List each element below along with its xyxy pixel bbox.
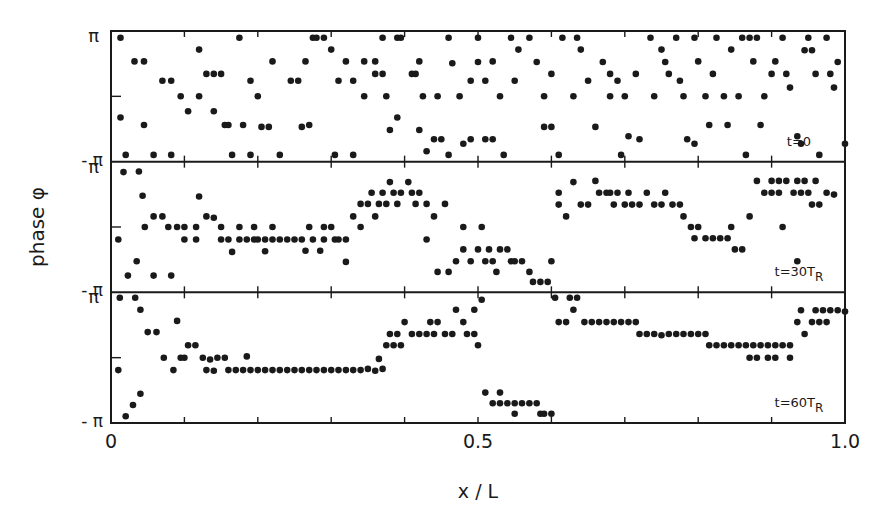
- panel-time-annotation: t=30TR: [775, 264, 824, 284]
- data-points: [115, 34, 848, 419]
- x-tick-label: 0: [105, 430, 117, 452]
- x-tick-label: 1.0: [830, 430, 860, 452]
- panel-2-points: [115, 295, 848, 420]
- axis-ticks: [111, 31, 772, 423]
- panel-0-points: [117, 34, 848, 158]
- panel-time-annotation: t=60TR: [775, 395, 824, 415]
- y-axis-label: phase φ: [25, 187, 49, 267]
- x-tick-label: 0.5: [463, 430, 493, 452]
- y-tick-pi: π: [88, 25, 99, 46]
- y-tick-neg-pi: - π: [81, 411, 103, 431]
- y-tick-pi: π: [88, 286, 99, 307]
- x-axis-label: x / L: [458, 480, 499, 502]
- phase-chart: π- πt=0π- πt=30TRπ- πt=60TR00.51.0 phase…: [0, 0, 887, 510]
- panel-time-annotation: t=0: [787, 134, 811, 149]
- y-tick-pi: π: [88, 156, 99, 177]
- panel-1-points: [115, 168, 837, 285]
